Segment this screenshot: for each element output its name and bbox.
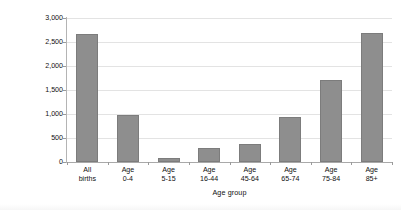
x-tick-label-line: 5-15 <box>148 175 189 184</box>
x-tick-label-line: Age <box>108 166 149 175</box>
x-tick-label: Age16-44 <box>189 166 230 190</box>
x-tick-mark <box>189 162 190 165</box>
bar-chart-figure: Expenditure (£s) 3,0002,5002,0001,5001,0… <box>0 0 401 210</box>
x-tick-label-line: births <box>67 175 108 184</box>
x-tick-mark <box>351 162 352 165</box>
bar-slot <box>108 18 149 162</box>
x-tick-label-line: Age <box>189 166 230 175</box>
x-tick-label-line: 0-4 <box>108 175 149 184</box>
x-axis-title: Age group <box>67 188 392 198</box>
x-tick-mark <box>311 162 312 165</box>
x-tick-mark <box>392 162 393 165</box>
y-tick-label: 500 <box>29 134 63 142</box>
bar-slot <box>67 18 108 162</box>
x-tick-label: Age85+ <box>351 166 392 190</box>
x-tick-mark <box>230 162 231 165</box>
bar <box>361 33 383 162</box>
bar-slot <box>270 18 311 162</box>
x-tick-label-line: 45-64 <box>230 175 271 184</box>
plot-area <box>67 18 392 162</box>
x-tick-label-line: 16-44 <box>189 175 230 184</box>
x-tick-label: Age45-64 <box>230 166 271 190</box>
x-tick-label-line: Age <box>230 166 271 175</box>
bar <box>239 144 261 162</box>
bar <box>117 115 139 162</box>
x-tick-label-line: Age <box>148 166 189 175</box>
x-tick-label: Allbirths <box>67 166 108 190</box>
bar <box>76 34 98 162</box>
x-tick-label-line: 85+ <box>351 175 392 184</box>
x-tick-label-line: Age <box>270 166 311 175</box>
x-tick-mark <box>108 162 109 165</box>
x-tick-label-line: 75-84 <box>311 175 352 184</box>
bar-slot <box>189 18 230 162</box>
x-tick-label-line: All <box>67 166 108 175</box>
x-tick-label-line: Age <box>351 166 392 175</box>
x-tick-mark <box>270 162 271 165</box>
y-axis-title: Expenditure (£s) <box>1 0 15 14</box>
bar <box>320 80 342 162</box>
x-tick-label-line: Age <box>311 166 352 175</box>
y-tick-label: 2,000 <box>29 62 63 70</box>
y-tick-label: 3,000 <box>29 14 63 22</box>
x-tick-label: Age75-84 <box>311 166 352 190</box>
y-tick-label: 1,500 <box>29 86 63 94</box>
bar-slot <box>230 18 271 162</box>
bar <box>279 117 301 162</box>
bar-slot <box>148 18 189 162</box>
x-tick-label: Age65-74 <box>270 166 311 190</box>
bars-group <box>67 18 392 162</box>
x-tick-label-line: 65-74 <box>270 175 311 184</box>
y-tick-label: 2,500 <box>29 38 63 46</box>
y-tick-label: 0 <box>29 158 63 166</box>
x-tick-mark <box>67 162 68 165</box>
x-tick-label: Age0-4 <box>108 166 149 190</box>
y-axis-tick-labels: 3,0002,5002,0001,5001,0005000 <box>25 18 63 162</box>
x-axis-tick-labels: AllbirthsAge0-4Age5-15Age16-44Age45-64Ag… <box>67 166 392 190</box>
y-tick-label: 1,000 <box>29 110 63 118</box>
bar-slot <box>311 18 352 162</box>
scan-edge-artifact <box>0 204 401 210</box>
x-tick-label: Age5-15 <box>148 166 189 190</box>
x-tick-mark <box>148 162 149 165</box>
bar <box>198 148 220 162</box>
bar-slot <box>351 18 392 162</box>
